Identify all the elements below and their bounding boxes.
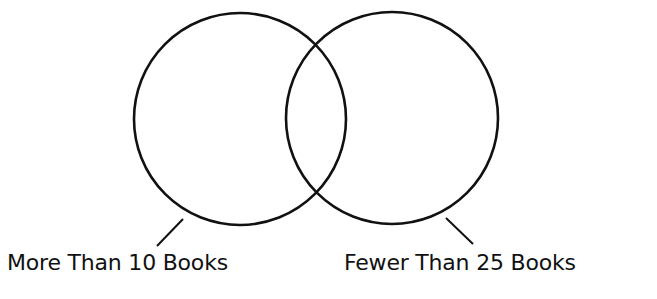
set-label-right: Fewer Than 25 Books [344, 250, 576, 275]
leader-line-right [446, 218, 473, 244]
set-label-left: More Than 10 Books [7, 250, 228, 275]
leader-line-left [157, 219, 183, 246]
circle-fewer-than-25-books [286, 12, 498, 224]
